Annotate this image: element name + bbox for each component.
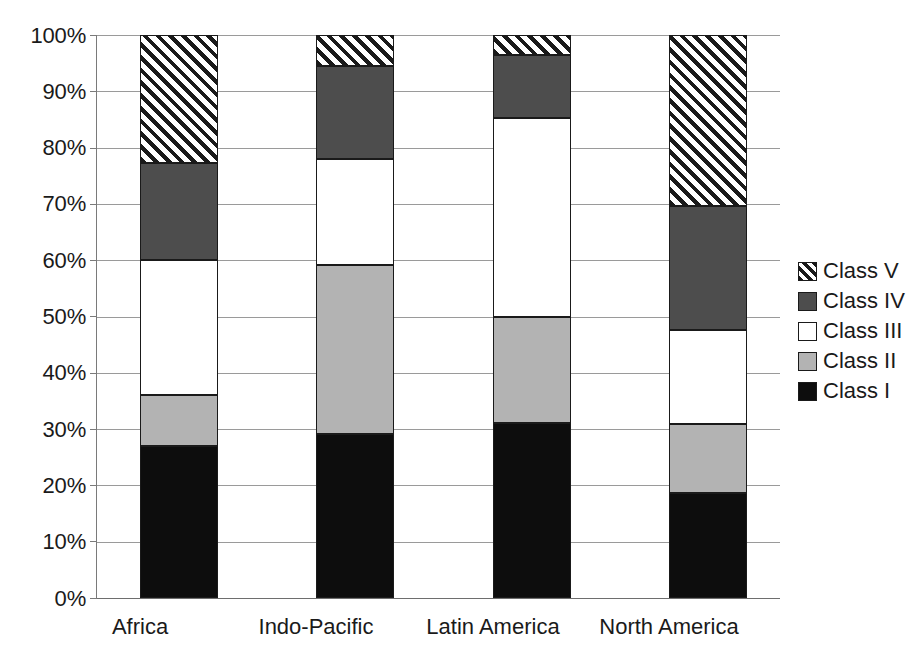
legend-label-class-iii: Class III: [823, 318, 902, 344]
legend-label-class-ii: Class II: [823, 348, 896, 374]
legend-item-class-iv: Class IV: [798, 286, 905, 316]
y-tick-label-0: 0%: [0, 586, 86, 612]
bar-segment-class-v: [140, 35, 218, 163]
bar-indo-pacific: [316, 35, 394, 598]
bar-segment-class-v: [669, 35, 747, 206]
y-tick-label-100: 100%: [0, 23, 86, 49]
bar-segment-class-ii: [140, 395, 218, 446]
y-tick-label-80: 80%: [0, 135, 86, 161]
plot-area: [97, 35, 780, 598]
bar-segment-class-iii: [493, 118, 571, 317]
bar-segment-class-ii: [316, 265, 394, 434]
bar-segment-class-i: [493, 423, 571, 598]
x-tick-label-north-america: North America: [574, 614, 764, 640]
legend-swatch-class-i-icon: [798, 382, 817, 401]
bar-segment-class-v: [316, 35, 394, 66]
y-tick-label-20: 20%: [0, 473, 86, 499]
bar-segment-class-ii: [493, 317, 571, 423]
bar-segment-class-iv: [140, 163, 218, 260]
y-tick-label-50: 50%: [0, 304, 86, 330]
bar-segment-class-iv: [669, 206, 747, 330]
bar-latin-america: [493, 35, 571, 598]
bar-segment-class-i: [316, 434, 394, 598]
stacked-bar-chart: 100% 90% 80% 70% 60% 50% 40% 30% 20% 10%…: [0, 0, 917, 663]
legend-item-class-i: Class I: [798, 376, 905, 406]
legend-label-class-iv: Class IV: [823, 288, 905, 314]
y-tick-label-40: 40%: [0, 360, 86, 386]
legend-swatch-class-iii-icon: [798, 322, 817, 341]
x-tick-label-africa: Africa: [45, 614, 235, 640]
bar-segment-class-ii: [669, 424, 747, 493]
bar-segment-class-i: [669, 493, 747, 598]
bar-segment-class-iv: [316, 66, 394, 159]
legend-swatch-class-iv-icon: [798, 292, 817, 311]
y-tick-label-10: 10%: [0, 529, 86, 555]
bar-segment-class-iv: [493, 55, 571, 118]
legend: Class V Class IV Class III Class II Clas…: [798, 256, 905, 406]
y-tick-label-70: 70%: [0, 191, 86, 217]
y-tick-label-30: 30%: [0, 417, 86, 443]
y-tick-label-90: 90%: [0, 79, 86, 105]
bar-segment-class-v: [493, 35, 571, 55]
legend-item-class-v: Class V: [798, 256, 905, 286]
bar-north-america: [669, 35, 747, 598]
x-tick-label-latin-america: Latin America: [398, 614, 588, 640]
legend-item-class-iii: Class III: [798, 316, 905, 346]
x-axis: [97, 598, 780, 599]
bar-segment-class-iii: [669, 330, 747, 424]
legend-label-class-v: Class V: [823, 258, 899, 284]
x-tick-label-indo-pacific: Indo-Pacific: [221, 614, 411, 640]
legend-swatch-class-v-icon: [798, 262, 817, 281]
legend-swatch-class-ii-icon: [798, 352, 817, 371]
legend-label-class-i: Class I: [823, 378, 890, 404]
bar-africa: [140, 35, 218, 598]
legend-item-class-ii: Class II: [798, 346, 905, 376]
y-tick-label-60: 60%: [0, 248, 86, 274]
bar-segment-class-iii: [316, 159, 394, 265]
bar-segment-class-i: [140, 446, 218, 598]
bar-segment-class-iii: [140, 260, 218, 395]
